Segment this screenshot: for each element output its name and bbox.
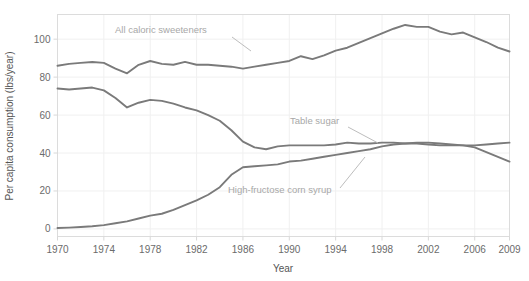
x-tick-label: 1974 [93, 244, 116, 255]
y-tick-label: 40 [39, 148, 51, 159]
series-annotation-label: All caloric sweeteners [115, 24, 207, 35]
y-tick-label: 20 [39, 185, 51, 196]
x-tick-label: 1982 [185, 244, 208, 255]
x-tick-label: 2009 [498, 244, 521, 255]
x-tick-label: 1970 [46, 244, 69, 255]
series-annotation-label: High-fructose corn syrup [228, 184, 331, 195]
x-tick-label: 1998 [371, 244, 394, 255]
y-tick-label: 60 [39, 110, 51, 121]
x-tick-label: 1978 [139, 244, 162, 255]
chart-background [0, 0, 529, 281]
x-tick-label: 1990 [278, 244, 301, 255]
y-tick-label: 100 [34, 34, 51, 45]
series-annotation-label: Table sugar [290, 115, 339, 126]
x-tick-label: 2006 [464, 244, 487, 255]
x-tick-label: 1986 [232, 244, 255, 255]
x-tick-label: 2002 [417, 244, 440, 255]
y-tick-label: 80 [39, 72, 51, 83]
chart-container: 020406080100 197019741978198219861990199… [0, 0, 529, 281]
x-tick-label: 1994 [325, 244, 348, 255]
y-axis-title: Per capita consumption (lbs/year) [4, 52, 15, 201]
y-tick-label: 0 [45, 223, 51, 234]
x-axis-title: Year [273, 263, 294, 274]
line-chart: 020406080100 197019741978198219861990199… [0, 0, 529, 281]
